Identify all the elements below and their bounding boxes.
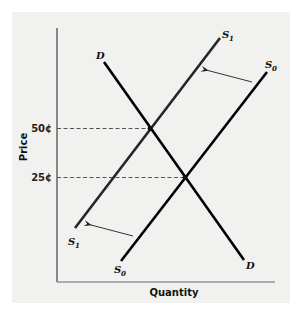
svg-text:0: 0 [272, 64, 277, 73]
equilibrium-point-25 [183, 175, 188, 180]
svg-text:1: 1 [75, 241, 80, 250]
supply-curve-s0 [121, 72, 267, 261]
equilibrium-point-50 [148, 126, 153, 131]
shift-arrow-lower [91, 225, 133, 236]
label-d-bottom: D [245, 260, 255, 271]
svg-text:1: 1 [229, 34, 234, 43]
supply-curve-s1 [75, 38, 220, 228]
label-s0-top: S 0 [265, 59, 277, 73]
label-s1-bottom: S 1 [68, 236, 80, 250]
supply-demand-chart: 50¢ 25¢ Price Quantity D D S 1 S 0 S 1 S… [0, 0, 299, 315]
label-d-top: D [95, 50, 105, 61]
tick-label-50: 50¢ [31, 123, 52, 134]
label-s0-bottom: S 0 [114, 264, 126, 278]
tick-label-25: 25¢ [31, 172, 52, 183]
shift-arrow-upper [208, 71, 252, 83]
x-axis-title: Quantity [150, 287, 199, 298]
label-s1-top: S 1 [222, 29, 234, 43]
y-axis-title: Price [18, 133, 29, 162]
svg-text:0: 0 [121, 269, 126, 278]
